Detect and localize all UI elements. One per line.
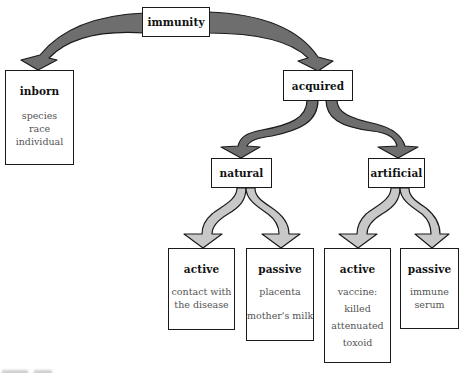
node-acquired: acquired bbox=[283, 70, 353, 101]
node-artificial-active-label: active bbox=[325, 263, 390, 275]
arrow-acquired-to-artificial bbox=[326, 100, 418, 158]
artificial-passive-item: immune bbox=[401, 285, 458, 298]
artificial-active-item: attenuated bbox=[325, 319, 390, 332]
illegible-caption-fragment bbox=[2, 362, 72, 370]
node-natural-passive-label: passive bbox=[247, 263, 313, 275]
node-acquired-label: acquired bbox=[292, 80, 345, 92]
node-natural-label: natural bbox=[220, 167, 264, 179]
artificial-active-item: toxoid bbox=[325, 336, 390, 349]
arrow-natural-to-passive bbox=[246, 188, 300, 248]
natural-passive-item: placenta bbox=[247, 285, 313, 298]
artificial-passive-item: serum bbox=[401, 298, 458, 311]
node-artificial-label: artificial bbox=[371, 167, 423, 179]
node-natural: natural bbox=[211, 158, 272, 188]
arrow-artificial-to-active bbox=[339, 188, 400, 248]
node-natural-passive: passive placenta mother's milk bbox=[246, 248, 314, 341]
node-artificial-active-items: vaccine: killed attenuated toxoid bbox=[325, 285, 390, 349]
immunity-diagram: immunity inborn species race individual … bbox=[0, 0, 464, 373]
inborn-item: race bbox=[6, 122, 73, 135]
node-immunity: immunity bbox=[142, 7, 210, 37]
inborn-item: individual bbox=[6, 135, 73, 148]
arrow-immunity-to-acquired bbox=[208, 12, 333, 71]
arrow-natural-to-active bbox=[184, 188, 246, 248]
node-artificial-passive-label: passive bbox=[401, 263, 458, 275]
node-artificial: artificial bbox=[368, 158, 425, 188]
node-natural-active-items: contact with the disease bbox=[169, 285, 234, 311]
node-natural-passive-items: placenta mother's milk bbox=[247, 285, 313, 322]
node-artificial-passive-items: immune serum bbox=[401, 285, 458, 311]
node-inborn-label: inborn bbox=[6, 85, 73, 97]
natural-active-item: the disease bbox=[169, 298, 234, 311]
node-natural-active: active contact with the disease bbox=[168, 248, 235, 330]
node-inborn: inborn species race individual bbox=[5, 70, 74, 165]
node-immunity-label: immunity bbox=[147, 16, 204, 28]
inborn-item: species bbox=[6, 109, 73, 122]
node-natural-active-label: active bbox=[169, 263, 234, 275]
arrow-artificial-to-passive bbox=[400, 188, 449, 248]
natural-active-item: contact with bbox=[169, 285, 234, 298]
artificial-active-item: vaccine: bbox=[325, 285, 390, 298]
artificial-active-item: killed bbox=[325, 302, 390, 315]
arrow-immunity-to-inborn bbox=[21, 13, 145, 70]
node-inborn-items: species race individual bbox=[6, 109, 73, 148]
natural-passive-item: mother's milk bbox=[247, 309, 313, 322]
node-artificial-passive: passive immune serum bbox=[400, 248, 459, 329]
node-artificial-active: active vaccine: killed attenuated toxoid bbox=[324, 248, 391, 363]
arrow-acquired-to-natural bbox=[221, 100, 318, 158]
